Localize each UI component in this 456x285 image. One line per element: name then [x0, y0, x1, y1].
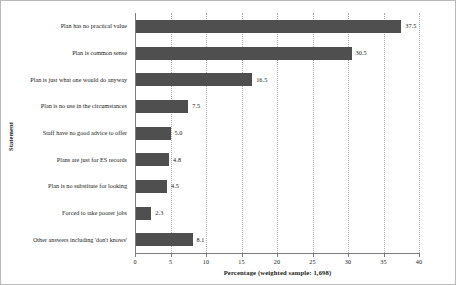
category-label: Forced to take poorer jobs: [1, 209, 131, 216]
bar-value-label: 4.5: [171, 182, 179, 189]
x-tick-label: 25: [309, 258, 315, 265]
gridline: [419, 13, 420, 253]
bar: [135, 73, 252, 86]
bar: [135, 100, 188, 113]
x-tick-label: 5: [169, 258, 172, 265]
x-tick: [384, 253, 385, 257]
category-label: Plan is no use in the circumstances: [1, 102, 131, 109]
category-label: Staff have no good advice to offer: [1, 129, 131, 136]
bar-value-label: 2.3: [155, 209, 163, 216]
bar: [135, 20, 401, 33]
category-label: Plan is just what one would do anyway: [1, 76, 131, 83]
x-tick-label: 15: [238, 258, 244, 265]
bar: [135, 180, 167, 193]
chart-figure: Statement Plan has no practical valuePla…: [0, 0, 456, 285]
x-tick: [419, 253, 420, 257]
x-tick: [242, 253, 243, 257]
bar: [135, 47, 352, 60]
x-tick: [135, 253, 136, 257]
x-tick-label: 40: [416, 258, 422, 265]
x-tick: [277, 253, 278, 257]
x-tick-label: 35: [380, 258, 386, 265]
x-tick: [348, 253, 349, 257]
x-axis-title: Percentage (weighted sample: 1,698): [135, 269, 420, 276]
bar-value-label: 30.5: [356, 49, 367, 56]
x-tick: [313, 253, 314, 257]
gridline: [384, 13, 385, 253]
plot-area: 37.530.516.57.55.04.84.52.38.1: [135, 13, 419, 253]
x-tick-label: 20: [274, 258, 280, 265]
x-tick-label: 10: [203, 258, 209, 265]
bar-value-label: 5.0: [175, 129, 183, 136]
bar: [135, 153, 169, 166]
category-label: Plan has no practical value: [1, 22, 131, 29]
bar-value-label: 4.8: [173, 156, 181, 163]
bar-value-label: 37.5: [405, 22, 416, 29]
category-label: Plan is no substitute for looking: [1, 182, 131, 189]
category-label: Other answers including 'don't knows': [1, 236, 131, 243]
bar-value-label: 8.1: [197, 236, 205, 243]
bar: [135, 127, 171, 140]
category-label: Plan is common sense: [1, 49, 131, 56]
x-tick: [206, 253, 207, 257]
bar-value-label: 16.5: [256, 76, 267, 83]
bar: [135, 207, 151, 220]
bar-value-label: 7.5: [192, 102, 200, 109]
category-label: Plans are just for ES records: [1, 156, 131, 163]
bar: [135, 233, 193, 246]
x-tick: [171, 253, 172, 257]
x-tick-label: 30: [345, 258, 351, 265]
y-axis-line: [135, 13, 136, 253]
x-tick-label: 0: [133, 258, 136, 265]
